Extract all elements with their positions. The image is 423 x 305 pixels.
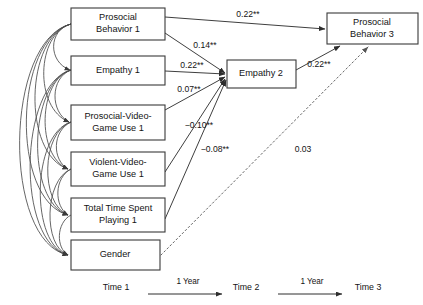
node-label-empathy-2: Empathy 2: [239, 68, 283, 78]
node-label-empathy-1: Empathy 1: [96, 65, 140, 75]
node-label-prosocial-behavior-3-line1: Prosocial: [353, 17, 391, 27]
node-label-total-time-spent-playing-1-line1: Total Time Spent: [84, 203, 153, 213]
timeline-interval-label-1: 1 Year: [176, 277, 199, 286]
corr-arc-vvgu1-ttsp1: [58, 169, 71, 215]
structural-paths-group: [161, 17, 368, 255]
coefficient-pb1-to-pb3: 0.22**: [236, 9, 260, 19]
path-empathy-1-to-empathy-2: [165, 71, 225, 74]
node-label-prosocial-video-game-use-1-line2: Game Use 1: [92, 123, 144, 133]
node-label-prosocial-behavior-1-line2: Behavior 1: [96, 24, 140, 34]
coefficient-ttsp1-to-emp2: −0.08**: [201, 144, 230, 154]
node-label-violent-video-game-use-1-line1: Violent-Video-: [89, 157, 146, 167]
node-label-gender: Gender: [100, 249, 131, 259]
node-label-prosocial-video-game-use-1-line1: Prosocial-Video-: [84, 111, 151, 121]
corr-arc-pb1-vvgu1: [35, 24, 71, 169]
correlation-arcs-group: [20, 24, 71, 255]
timeline-point-time-1: Time 1: [103, 282, 130, 292]
coefficient-emp1-to-emp2: 0.22**: [180, 60, 204, 70]
node-label-prosocial-behavior-3-line2: Behavior 3: [350, 29, 394, 39]
coefficient-pb1-to-emp2: 0.14**: [193, 40, 217, 50]
path-diagram-figure: Prosocial Behavior 1 Empathy 1 Prosocial…: [0, 0, 423, 305]
coefficient-emp2-to-pb3: 0.22**: [307, 59, 331, 69]
coefficient-pvgu1-to-emp2: 0.07**: [177, 84, 201, 94]
timeline-group: Time 1 Time 2 Time 3 1 Year 1 Year: [103, 277, 382, 294]
node-boxes-group: Prosocial Behavior 1 Empathy 1 Prosocial…: [71, 8, 418, 270]
node-label-violent-video-game-use-1-line2: Game Use 1: [92, 169, 144, 179]
timeline-interval-label-2: 1 Year: [300, 277, 323, 286]
timeline-point-time-3: Time 3: [355, 282, 382, 292]
node-label-total-time-spent-playing-1-line2: Playing 1: [99, 215, 137, 225]
path-diagram-canvas: Prosocial Behavior 1 Empathy 1 Prosocial…: [0, 0, 423, 305]
coefficient-gender-to-pb3: 0.03: [295, 144, 312, 154]
corr-arc-ttsp1-gender: [59, 215, 71, 255]
timeline-point-time-2: Time 2: [233, 282, 260, 292]
coefficient-vvgu1-to-emp2: −0.10**: [185, 120, 214, 130]
node-label-prosocial-behavior-1-line1: Prosocial: [99, 12, 137, 22]
